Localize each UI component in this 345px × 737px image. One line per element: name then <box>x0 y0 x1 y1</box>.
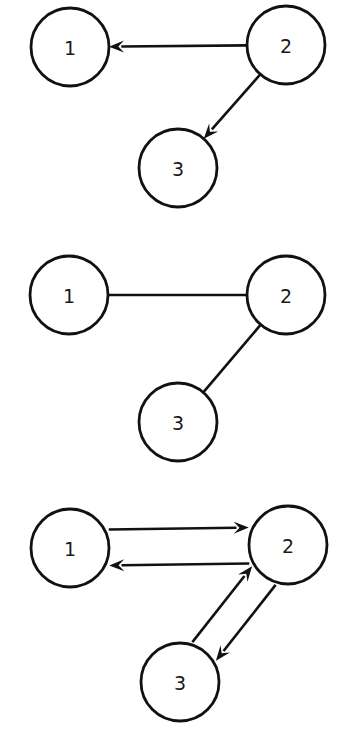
graph-node-1[interactable]: 1 <box>31 8 109 86</box>
graph-node-2[interactable]: 2 <box>247 6 325 84</box>
node-layer: 123 <box>31 506 327 721</box>
graph-panel-directed-graph: 123 <box>31 6 325 207</box>
edge-3-to-2 <box>192 576 244 642</box>
edge-2-to-3 <box>203 325 260 393</box>
node-layer: 123 <box>31 6 325 207</box>
edge-layer <box>109 41 260 139</box>
graph-panel-undirected-graph: 123 <box>30 256 325 461</box>
graph-node-1[interactable]: 1 <box>31 509 109 587</box>
node-label-1: 1 <box>63 285 75 307</box>
edge-1-to-2 <box>109 528 237 530</box>
node-label-3: 3 <box>172 412 184 434</box>
edge-2-to-3 <box>212 74 260 129</box>
graph-node-2[interactable]: 2 <box>249 506 327 584</box>
node-label-2: 2 <box>280 35 292 57</box>
edge-layer <box>108 295 261 392</box>
node-label-3: 3 <box>172 158 184 180</box>
edge-2-to-1 <box>121 45 247 46</box>
edge-2-to-1 <box>122 564 250 566</box>
graph-svg-root: 123123123 <box>0 0 345 737</box>
graph-panel-bidirectional-graph: 123 <box>31 506 327 721</box>
node-label-1: 1 <box>64 538 76 560</box>
edge-2-to-3 <box>224 585 276 651</box>
node-label-2: 2 <box>280 285 292 307</box>
graph-diagram-canvas: 123123123 <box>0 0 345 737</box>
graph-node-1[interactable]: 1 <box>30 256 108 334</box>
graph-node-2[interactable]: 2 <box>247 256 325 334</box>
graph-node-3[interactable]: 3 <box>139 129 217 207</box>
node-label-1: 1 <box>64 37 76 59</box>
graph-node-3[interactable]: 3 <box>141 643 219 721</box>
node-label-3: 3 <box>174 672 186 694</box>
graph-node-3[interactable]: 3 <box>139 383 217 461</box>
node-label-2: 2 <box>282 535 294 557</box>
node-layer: 123 <box>30 256 325 461</box>
